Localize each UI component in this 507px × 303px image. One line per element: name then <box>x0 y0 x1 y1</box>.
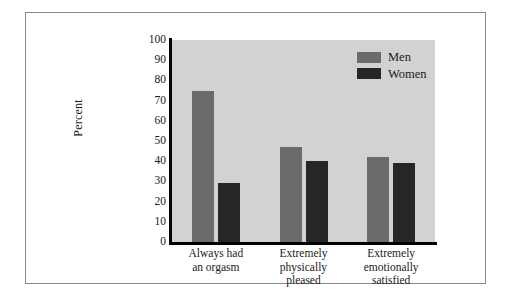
x-axis-category-labels: Always hadan orgasmExtremelyphysicallypl… <box>172 247 435 295</box>
y-axis-tick-labels: 0102030405060708090100 <box>136 34 166 246</box>
category-label-line: satisfied <box>347 274 435 288</box>
y-axis-tick-label: 90 <box>155 54 167 66</box>
y-axis-tick-label: 30 <box>155 176 167 188</box>
category-label-line: Always had <box>172 247 260 261</box>
x-axis-category-label: Extremelyphysicallypleased <box>260 247 348 288</box>
legend-label: Women <box>388 68 427 81</box>
category-label-line: physically <box>260 261 348 275</box>
legend-swatch-icon <box>357 68 381 79</box>
legend: MenWomen <box>357 51 427 80</box>
y-axis-tick-label: 10 <box>155 216 167 228</box>
category-label-line: an orgasm <box>172 261 260 275</box>
figure-frame: Percent 0102030405060708090100 MenWomen … <box>25 12 486 284</box>
y-axis-tick-label: 0 <box>160 236 166 248</box>
y-axis-tick-label: 100 <box>149 34 166 46</box>
category-label-line: pleased <box>260 274 348 288</box>
bar <box>393 163 415 242</box>
legend-item-men: Men <box>357 51 427 64</box>
y-axis-tick-label: 60 <box>155 115 167 127</box>
y-axis-tick-label: 70 <box>155 95 167 107</box>
legend-item-women: Women <box>357 68 427 81</box>
bar <box>306 161 328 242</box>
y-axis-spine <box>169 38 172 245</box>
y-axis-tick-label: 20 <box>155 196 167 208</box>
figure-canvas: Percent 0102030405060708090100 MenWomen … <box>0 0 507 303</box>
x-axis-category-label: Extremelyemotionallysatisfied <box>347 247 435 288</box>
y-axis-title: Percent <box>71 58 86 178</box>
category-label-line: emotionally <box>347 261 435 275</box>
legend-swatch-icon <box>357 52 381 63</box>
category-label-line: Extremely <box>260 247 348 261</box>
x-axis-spine <box>169 242 437 245</box>
bar <box>367 157 389 242</box>
bar <box>218 183 240 242</box>
y-axis-tick-label: 50 <box>155 135 167 147</box>
x-axis-category-label: Always hadan orgasm <box>172 247 260 274</box>
bar <box>192 91 214 243</box>
y-axis-tick-label: 40 <box>155 155 167 167</box>
bar <box>280 147 302 242</box>
legend-label: Men <box>388 51 411 64</box>
y-axis-tick-label: 80 <box>155 75 167 87</box>
category-label-line: Extremely <box>347 247 435 261</box>
